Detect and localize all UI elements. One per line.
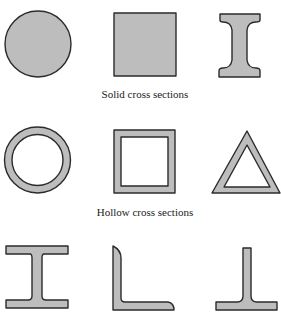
hollow-caption: Hollow cross sections [97,206,194,218]
cross-sections-diagram: Solid cross sections Hollow cross sectio… [0,0,281,323]
hollow-square [114,130,175,193]
structural-row [6,246,277,310]
hollow-row [5,127,281,193]
angle-l-section [113,246,174,310]
solid-row [5,11,260,77]
hollow-circle [5,127,71,193]
wide-flange-i-beam [6,246,68,308]
hollow-triangle [212,131,280,193]
solid-square [114,13,176,76]
solid-circle [5,11,71,77]
tee-section [216,248,277,310]
solid-i-section [219,14,260,77]
solid-caption: Solid cross sections [102,88,189,100]
